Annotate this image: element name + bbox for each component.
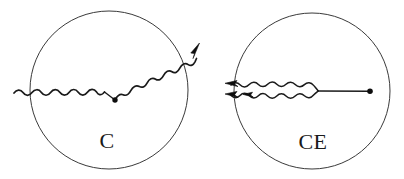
panel-ce-upper-wavy-line	[231, 82, 318, 91]
panel-ce-group: CE	[225, 13, 390, 169]
feynman-diagram-svg: C CE	[0, 0, 404, 179]
panel-ce-vertex-dot	[367, 88, 373, 94]
figure-root: C CE	[0, 0, 404, 179]
panel-c-label: C	[99, 128, 114, 153]
panel-c-group: C	[14, 11, 200, 169]
panel-c-arrowhead-icon	[191, 43, 200, 59]
panel-c-vertex-dot	[112, 97, 117, 102]
panel-ce-label: CE	[298, 129, 327, 154]
panel-c-incoming-wavy-line	[14, 89, 105, 95]
